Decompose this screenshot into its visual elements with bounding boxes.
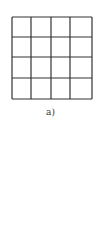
figure-caption: a) bbox=[0, 107, 101, 117]
